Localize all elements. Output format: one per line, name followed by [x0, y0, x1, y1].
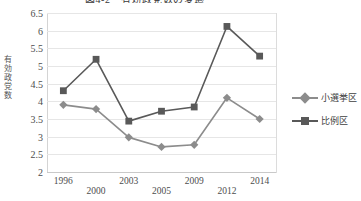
data-point-diamond	[59, 101, 67, 109]
data-point-square	[158, 108, 165, 115]
data-point-diamond	[256, 115, 264, 123]
data-point-square	[125, 118, 132, 125]
chart-page: 図4-2 有効政党数の変遷 有 効 政 党 数 6.565.554.543.53…	[0, 0, 361, 201]
legend-item-small-district[interactable]: 小選挙区	[292, 86, 361, 109]
data-point-square	[60, 87, 67, 94]
legend-key-diamond	[292, 92, 318, 104]
series-line	[63, 98, 259, 147]
legend-label: 小選挙区	[321, 91, 357, 104]
legend-key-square	[292, 115, 318, 127]
data-point-square	[93, 56, 100, 63]
series-small-district	[59, 94, 263, 151]
series-line	[63, 26, 259, 121]
legend-label: 比例区	[321, 114, 348, 127]
legend-item-proportional[interactable]: 比例区	[292, 109, 361, 132]
data-point-diamond	[157, 143, 165, 151]
data-point-square	[224, 23, 231, 30]
series-proportional	[60, 23, 263, 124]
data-point-square	[256, 53, 263, 60]
chart-legend: 小選挙区 比例区	[292, 86, 361, 132]
data-point-square	[191, 104, 198, 111]
